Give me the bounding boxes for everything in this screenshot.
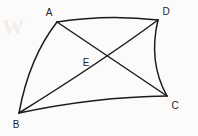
vertex-label-A: A bbox=[46, 8, 53, 18]
geometry-figure: W A D B C E bbox=[0, 0, 198, 136]
diagonal-AC bbox=[57, 22, 167, 96]
vertex-label-E: E bbox=[83, 58, 90, 68]
edge-AD bbox=[57, 17, 158, 22]
vertex-label-C: C bbox=[171, 101, 178, 111]
vertex-label-D: D bbox=[162, 7, 169, 17]
figure-canvas bbox=[0, 0, 198, 136]
edge-DC bbox=[155, 20, 167, 96]
edge-AB bbox=[19, 22, 57, 113]
vertex-label-B: B bbox=[13, 120, 20, 130]
